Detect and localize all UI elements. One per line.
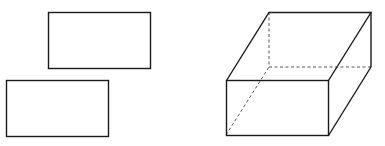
visible-edges (227, 13, 372, 136)
right-bottom-edge (329, 67, 372, 136)
front-face (227, 81, 329, 136)
rectangular-prism (226, 12, 371, 136)
bottom-rectangle (7, 81, 109, 137)
geometry-figure (0, 0, 385, 146)
top-face-back-edges (227, 13, 372, 81)
top-rectangle (49, 13, 151, 69)
hidden-edges (226, 12, 371, 135)
